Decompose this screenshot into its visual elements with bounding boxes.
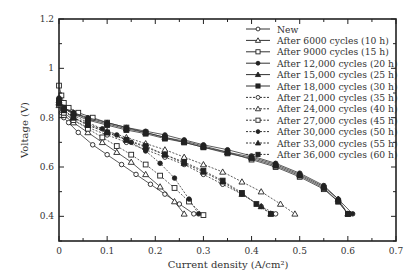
y-axis-label: Voltage (V): [19, 102, 30, 159]
y-tick-label: 0.8: [40, 113, 55, 123]
legend-label: After 36,000 cycles (60 h): [276, 149, 398, 160]
x-tick-label: 0.6: [341, 246, 356, 256]
polarization-chart: 00.10.20.30.40.50.60.70.40.60.811.2 NewA…: [0, 0, 415, 280]
x-tick-label: 0.2: [148, 246, 162, 256]
legend-label: After 15,000 cycles (25 h): [276, 69, 398, 80]
legend-item: After 9000 cycles (15 h): [246, 46, 389, 57]
legend-item: After 33,000 cycles (55 h): [246, 138, 398, 149]
x-tick-label: 0.3: [196, 246, 211, 256]
y-tick-label: 1: [48, 63, 54, 73]
x-axis-label: Current density (A/cm²): [168, 259, 289, 270]
legend-item: After 15,000 cycles (25 h): [246, 69, 398, 80]
y-tick-label: 0.4: [40, 211, 55, 221]
legend-item: After 12,000 cycles (20 h): [246, 58, 398, 69]
y-tick-label: 0.6: [40, 162, 55, 172]
x-tick-label: 0.7: [389, 246, 404, 256]
legend-item: After 36,000 cycles (60 h): [246, 149, 398, 160]
x-tick-label: 0: [56, 246, 62, 256]
legend-label: After 6000 cycles (10 h): [276, 35, 389, 46]
x-tick-label: 0.4: [244, 246, 259, 256]
legend-label: After 12,000 cycles (20 h): [276, 58, 398, 69]
legend-item: New: [246, 24, 298, 35]
legend-label: New: [277, 24, 298, 35]
legend-item: After 27,000 cycles (45 h): [246, 115, 398, 126]
y-tick-label: 1.2: [40, 14, 54, 24]
legend-item: After 24,000 cycles (40 h): [246, 103, 398, 114]
legend-label: After 27,000 cycles (45 h): [276, 115, 398, 126]
legend-item: After 21,000 cycles (35 h): [246, 92, 398, 103]
x-tick-label: 0.5: [293, 246, 308, 256]
legend-label: After 9000 cycles (15 h): [276, 46, 389, 57]
legend-label: After 21,000 cycles (35 h): [276, 92, 398, 103]
legend-item: After 18,000 cycles (30 h): [246, 81, 398, 92]
legend-label: After 24,000 cycles (40 h): [276, 103, 398, 114]
legend-item: After 30,000 cycles (50 h): [246, 126, 398, 137]
x-tick-label: 0.1: [100, 246, 114, 256]
legend-label: After 30,000 cycles (50 h): [276, 126, 398, 137]
legend: NewAfter 6000 cycles (10 h)After 9000 cy…: [246, 24, 398, 160]
legend-label: After 18,000 cycles (30 h): [276, 81, 398, 92]
legend-item: After 6000 cycles (10 h): [246, 35, 389, 46]
legend-label: After 33,000 cycles (55 h): [276, 138, 398, 149]
